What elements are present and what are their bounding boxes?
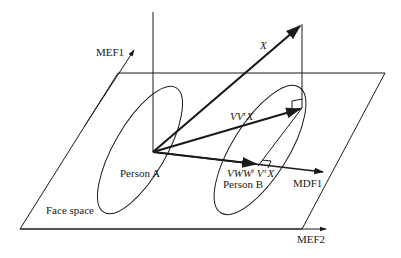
face-space-diagram: MEF1 MEF2 MDF1 X VVtX VWWt VtX Person A … [0, 0, 401, 258]
right-angle-marker-projection [292, 101, 302, 110]
person-a-cluster [81, 75, 198, 226]
mef1-axis-arrow [84, 50, 134, 127]
mef1-label: MEF1 [96, 46, 124, 58]
x-vector-label: X [259, 39, 268, 51]
face-space-label: Face space [46, 204, 94, 216]
projection-vector-arrow [153, 109, 300, 152]
person-b-cluster [197, 72, 323, 227]
mdf1-label: MDF1 [293, 177, 322, 189]
mdf-projection-vector-arrow [153, 152, 256, 164]
projection-label: VVtX [230, 110, 254, 122]
person-a-label: Person A [120, 167, 160, 179]
right-angle-marker-projection-top [292, 99, 302, 101]
mdf-perpendicular-line [258, 108, 302, 166]
mef2-label: MEF2 [297, 233, 325, 245]
x-vector-arrow [153, 26, 300, 152]
person-b-label: Person B [223, 178, 263, 190]
